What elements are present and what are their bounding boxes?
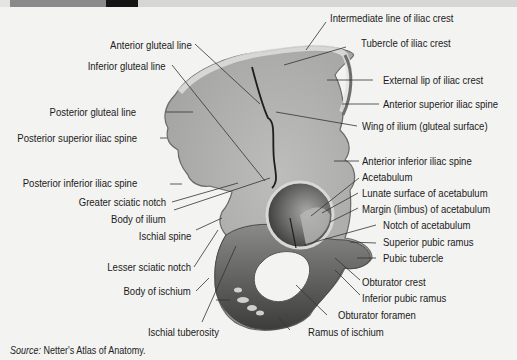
label-ischial-spine: Ischial spine	[139, 230, 191, 242]
label-inferior-gluteal-line: Inferior gluteal line	[88, 60, 166, 72]
source-prefix: Source:	[10, 345, 41, 356]
label-ramus-of-ischium: Ramus of ischium	[308, 326, 384, 338]
label-inferior-pubic-ramus: Inferior pubic ramus	[362, 292, 446, 304]
label-lesser-sciatic-notch: Lesser sciatic notch	[107, 261, 191, 273]
label-superior-pubic-ramus: Superior pubic ramus	[383, 236, 474, 248]
label-anterior-superior-iliac-spine: Anterior superior iliac spine	[383, 98, 498, 110]
label-posterior-inferior-iliac-spine: Posterior inferior iliac spine	[23, 177, 137, 189]
label-obturator-foramen: Obturator foramen	[338, 309, 416, 321]
label-body-of-ilium: Body of ilium	[111, 213, 166, 225]
label-ischial-tuberosity: Ischial tuberosity	[148, 326, 219, 338]
label-acetabulum: Acetabulum	[362, 171, 412, 183]
label-body-of-ischium: Body of ischium	[124, 285, 191, 297]
label-tubercle-of-iliac-crest: Tubercle of iliac crest	[361, 37, 451, 49]
source-text: Netter's Atlas of Anatomy.	[41, 345, 146, 356]
label-wing-of-ilium: Wing of ilium (gluteal surface)	[362, 120, 488, 132]
label-external-lip-of-iliac-crest: External lip of iliac crest	[383, 74, 483, 86]
label-greater-sciatic-notch: Greater sciatic notch	[79, 196, 166, 208]
source-caption: Source: Netter's Atlas of Anatomy.	[10, 345, 146, 356]
label-posterior-superior-iliac-spine: Posterior superior iliac spine	[17, 132, 137, 144]
label-margin-of-acetabulum: Margin (limbus) of acetabulum	[362, 203, 490, 215]
label-lunate-surface: Lunate surface of acetabulum	[362, 187, 488, 199]
label-anterior-gluteal-line: Anterior gluteal line	[110, 39, 192, 51]
label-notch-of-acetabulum: Notch of acetabulum	[383, 219, 470, 231]
label-obturator-crest: Obturator crest	[362, 276, 426, 288]
label-intermediate-line-of-iliac-crest: Intermediate line of iliac crest	[330, 12, 453, 24]
label-posterior-gluteal-line: Posterior gluteal line	[50, 106, 136, 118]
label-anterior-inferior-iliac-spine: Anterior inferior iliac spine	[362, 155, 472, 167]
label-pubic-tubercle: Pubic tubercle	[383, 252, 443, 264]
